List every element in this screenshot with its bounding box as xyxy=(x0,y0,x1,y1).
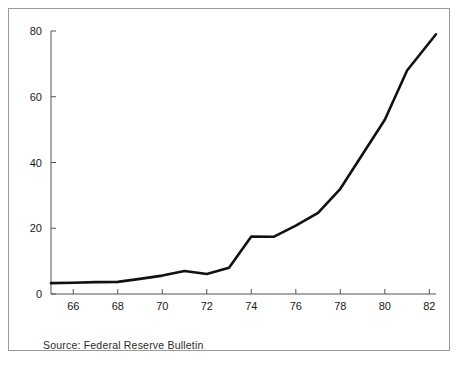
x-axis-tick-label: 82 xyxy=(423,300,435,312)
x-axis-tick-label: 76 xyxy=(290,300,302,312)
y-axis-tick-label: 20 xyxy=(30,222,42,234)
x-axis-tick-label: 68 xyxy=(112,300,124,312)
x-axis-tick-label: 66 xyxy=(67,300,79,312)
y-axis-tick-label: 80 xyxy=(30,25,42,37)
y-axis-tick-label: 60 xyxy=(30,91,42,103)
y-axis-tick-label: 40 xyxy=(30,157,42,169)
figure-root: 020406080 666870727476788082 Source: Fed… xyxy=(0,0,465,367)
x-axis-tick-label: 74 xyxy=(245,300,257,312)
x-axis-tick-label: 78 xyxy=(334,300,346,312)
y-axis-tick-label: 0 xyxy=(36,288,42,300)
x-axis-tick-label: 80 xyxy=(379,300,391,312)
source-note: Source: Federal Reserve Bulletin xyxy=(43,339,203,351)
plot-background xyxy=(9,9,449,350)
figure-frame: 020406080 666870727476788082 Source: Fed… xyxy=(8,8,450,351)
line-chart: 020406080 666870727476788082 xyxy=(9,9,449,350)
x-axis-tick-label: 72 xyxy=(201,300,213,312)
x-axis-tick-label: 70 xyxy=(156,300,168,312)
